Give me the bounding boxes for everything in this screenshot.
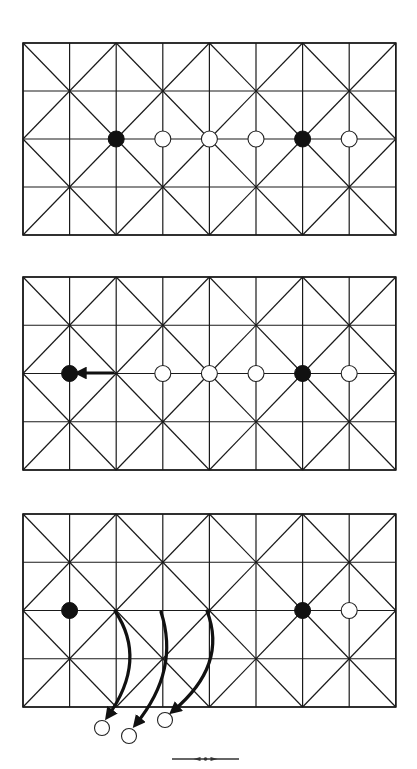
white-piece: [155, 131, 171, 147]
board-diagram-svg: [0, 0, 417, 769]
black-piece: [295, 366, 311, 382]
black-piece: [62, 603, 78, 619]
panel-3-board: [23, 514, 396, 707]
white-piece: [248, 366, 264, 382]
white-piece: [341, 131, 357, 147]
black-piece: [108, 131, 124, 147]
black-piece: [295, 131, 311, 147]
captured-white-piece: [122, 729, 137, 744]
captured-white-piece: [95, 721, 110, 736]
white-piece: [341, 366, 357, 382]
black-piece: [62, 366, 78, 382]
white-piece: [201, 131, 217, 147]
black-piece: [295, 603, 311, 619]
footer-ornament: [172, 757, 239, 761]
white-piece: [201, 366, 217, 382]
white-piece: [341, 603, 357, 619]
white-piece: [248, 131, 264, 147]
captured-white-piece: [158, 713, 173, 728]
capture-arrow-icon: [173, 611, 213, 711]
white-piece: [155, 366, 171, 382]
capture-arrow-icon: [108, 611, 130, 716]
